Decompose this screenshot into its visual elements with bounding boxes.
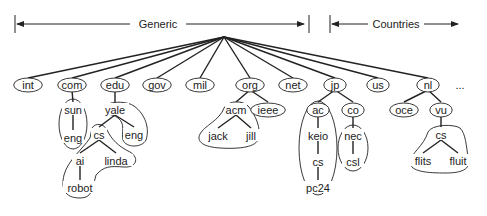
node-fluit: fluit: [441, 154, 475, 167]
node-label: sun: [64, 104, 82, 116]
node-nec: nec: [342, 129, 364, 142]
node-keio: keio: [304, 129, 332, 142]
node-ai: ai: [72, 154, 88, 167]
node-gov: gov: [143, 78, 172, 92]
node-mil: mil: [186, 78, 215, 92]
node-label: pc24: [306, 182, 330, 194]
node-label: acm: [226, 104, 247, 116]
node-label: int: [22, 79, 34, 91]
node-label: oce: [395, 104, 413, 116]
node-label: cs: [313, 156, 325, 168]
node-yale: yale: [101, 103, 129, 116]
node-label: eng: [64, 132, 82, 144]
generic-range: Generic: [15, 15, 309, 33]
node-label: mil: [193, 79, 207, 91]
node-yale-eng: eng: [123, 128, 145, 141]
node-acm: acm: [225, 103, 247, 116]
node-label: keio: [308, 130, 328, 142]
node-label: jp: [330, 79, 340, 91]
node-label: jack: [207, 130, 228, 142]
node-label: cs: [94, 129, 106, 141]
node-label: us: [372, 79, 384, 91]
node-label: net: [285, 79, 300, 91]
node-jack: jack: [204, 129, 232, 142]
node-label: org: [242, 79, 258, 91]
node-robot: robot: [63, 181, 97, 194]
node-sun-eng: eng: [62, 131, 84, 144]
node-com: com: [58, 78, 87, 92]
node-ac: ac: [307, 103, 329, 117]
dns-tree-diagram: Generic Countries intcomedugovmilorgnetj…: [0, 0, 487, 216]
node-label: nl: [424, 79, 433, 91]
node-jp: jp: [324, 78, 346, 92]
node-label: gov: [148, 79, 166, 91]
node-linda: linda: [99, 154, 133, 167]
node-oce: oce: [390, 103, 419, 117]
node-label: flits: [415, 155, 432, 167]
node-ieee: ieee: [251, 103, 286, 117]
root-edges: [28, 37, 428, 78]
more-countries-ellipsis: ...: [455, 79, 464, 91]
node-label: nec: [344, 130, 362, 142]
node-org: org: [236, 78, 265, 92]
node-yale-cs: cs: [91, 128, 107, 141]
countries-label: Countries: [372, 18, 420, 30]
node-us: us: [367, 78, 389, 92]
node-label: robot: [67, 182, 92, 194]
node-label: fluit: [449, 155, 466, 167]
node-label: linda: [104, 155, 128, 167]
node-co: co: [342, 103, 364, 117]
node-label: vu: [435, 104, 447, 116]
node-flits: flits: [406, 154, 440, 167]
node-label: co: [347, 104, 359, 116]
node-label: cs: [436, 129, 448, 141]
node-label: jill: [245, 130, 256, 142]
node-label: ai: [76, 155, 85, 167]
node-int: int: [14, 78, 43, 92]
node-label: eng: [125, 129, 143, 141]
node-pc24: pc24: [304, 181, 332, 194]
node-net: net: [279, 78, 308, 92]
node-keio-cs: cs: [310, 155, 326, 168]
node-label: csl: [346, 156, 359, 168]
node-vu: vu: [430, 103, 452, 117]
node-label: edu: [106, 79, 124, 91]
node-jill: jill: [237, 129, 265, 142]
node-label: yale: [105, 104, 125, 116]
node-label: com: [62, 79, 83, 91]
node-nl: nl: [417, 78, 439, 92]
node-sun: sun: [62, 103, 84, 116]
node-label: ieee: [258, 104, 279, 116]
node-vu-cs: cs: [433, 128, 449, 141]
countries-range: Countries: [330, 15, 458, 33]
node-label: ac: [312, 104, 324, 116]
node-csl: csl: [342, 155, 364, 168]
generic-label: Generic: [139, 18, 178, 30]
node-edu: edu: [101, 78, 130, 92]
